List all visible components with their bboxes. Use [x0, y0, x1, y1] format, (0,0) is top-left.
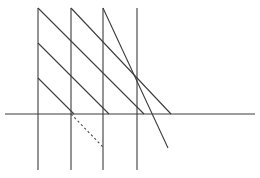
- diagram-svg: [0, 0, 260, 178]
- diagram-canvas: [0, 0, 260, 178]
- diagram-background: [0, 0, 260, 178]
